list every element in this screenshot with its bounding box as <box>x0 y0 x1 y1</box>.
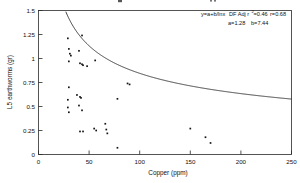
scatter-point <box>95 130 97 132</box>
x-tick-label-200: 200 <box>236 158 247 165</box>
scatter-point <box>104 123 106 125</box>
scatter-points-layer <box>67 35 211 149</box>
x-tick-label-150: 150 <box>185 158 196 165</box>
scatter-point <box>67 99 69 101</box>
annotation-a-value: a=1.28 <box>228 20 245 26</box>
scatter-point <box>69 53 71 55</box>
scatter-point <box>81 109 83 111</box>
scatter-point <box>117 98 119 100</box>
scatter-point <box>68 111 70 113</box>
scatter-point <box>79 62 81 64</box>
y-axis-title: L5 earthworms (gr) <box>6 55 14 109</box>
annotation-equation: y=a+b/lnx <box>201 11 225 17</box>
scatter-point <box>86 65 88 67</box>
scatter-point <box>81 35 83 37</box>
fit-annotation: y=a+b/lnx DF Adj r 2 =0.46 r=0.68 a=1.28… <box>201 9 286 26</box>
cropped-title-strip <box>118 0 216 2</box>
y-tick-label-1: 1 <box>32 55 36 62</box>
scatter-point <box>79 131 81 133</box>
scatter-point <box>189 128 191 130</box>
scatter-point <box>70 55 72 57</box>
annotation-r-value: r=0.68 <box>270 11 286 17</box>
x-tick-label-0: 0 <box>37 158 41 165</box>
y-tick-label-1-5: 1.5 <box>26 7 35 14</box>
scatter-point <box>78 50 80 52</box>
scatter-point <box>82 131 84 133</box>
scatter-point <box>78 105 80 107</box>
scatter-point <box>67 107 69 109</box>
scatter-point <box>210 142 212 144</box>
y-tick-label-0-75: 0.75 <box>23 79 36 86</box>
scatter-point <box>105 129 107 131</box>
annotation-b-value: b=7.44 <box>251 20 268 26</box>
scatter-point <box>106 133 108 135</box>
scatter-point <box>82 64 84 66</box>
y-tick-label-0-5: 0.5 <box>26 103 35 110</box>
scatter-point <box>117 147 119 149</box>
scatter-point <box>68 86 70 88</box>
scatter-point <box>76 94 78 96</box>
scatter-point <box>94 60 96 62</box>
y-axis-ticks <box>39 11 43 155</box>
y-tick-label-0: 0 <box>32 151 36 158</box>
scatter-point <box>80 97 82 99</box>
annotation-r2-value: =0.46 <box>254 11 268 17</box>
scatter-point <box>129 84 131 86</box>
x-axis-ticks <box>39 151 292 155</box>
y-tick-label-0-25: 0.25 <box>23 127 36 134</box>
x-tick-label-250: 250 <box>286 158 297 165</box>
scatter-point <box>93 128 95 130</box>
x-tick-label-100: 100 <box>135 158 146 165</box>
annotation-r2-label: DF Adj r <box>229 11 249 17</box>
scatter-point <box>127 83 129 85</box>
scatter-plot-svg: 0 0.25 0.5 0.75 1 1.25 1.5 0 50 100 150 … <box>0 0 300 183</box>
y-tick-label-1-25: 1.25 <box>23 31 36 38</box>
scatter-point <box>68 48 70 50</box>
scatter-point <box>205 136 207 138</box>
x-axis-title: Copper (ppm) <box>148 169 187 177</box>
chart-container: 0 0.25 0.5 0.75 1 1.25 1.5 0 50 100 150 … <box>0 0 300 183</box>
scatter-point <box>67 37 69 39</box>
scatter-point <box>68 61 70 63</box>
x-tick-label-50: 50 <box>86 158 93 165</box>
